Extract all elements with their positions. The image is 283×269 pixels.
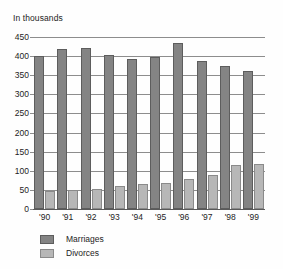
bar-group: [81, 37, 102, 209]
legend: Marriages Divorces: [40, 232, 104, 260]
bar-marriages-94: [127, 59, 137, 209]
bar-divorces-95: [161, 183, 171, 209]
bar-divorces-98: [231, 165, 241, 209]
x-axis-line: [33, 209, 265, 210]
y-tick-label-100: 100: [15, 166, 29, 176]
bar-marriages-97: [197, 61, 207, 209]
x-tick-label-94: '94: [126, 212, 149, 222]
x-tick-label-99: '99: [242, 212, 265, 222]
bar-group: [243, 37, 264, 209]
bar-group: [34, 37, 55, 209]
bar-divorces-99: [254, 164, 264, 209]
y-tick-label-250: 250: [15, 108, 29, 118]
x-tick-label-96: '96: [172, 212, 195, 222]
bar-group: [57, 37, 78, 209]
bar-group: [197, 37, 218, 209]
legend-item-divorces: Divorces: [40, 246, 104, 260]
y-tick-label-400: 400: [15, 51, 29, 61]
y-tick-label-450: 450: [15, 32, 29, 42]
x-axis-labels: '90'91'92'93'94'95'96'97'98'99: [33, 212, 265, 226]
x-tick-label-98: '98: [219, 212, 242, 222]
y-tick-label-150: 150: [15, 147, 29, 157]
bar-divorces-96: [184, 179, 194, 209]
bar-group: [173, 37, 194, 209]
bar-group: [150, 37, 171, 209]
chart-title: In thousands: [13, 13, 63, 23]
x-tick-label-90: '90: [33, 212, 56, 222]
bar-marriages-95: [150, 57, 160, 209]
legend-swatch-marriages: [40, 235, 54, 244]
legend-label-divorces: Divorces: [66, 248, 99, 258]
bar-chart: In thousands 050100150200250300350400450…: [0, 0, 283, 269]
bar-group: [220, 37, 241, 209]
bar-marriages-93: [104, 55, 114, 209]
bar-divorces-93: [115, 186, 125, 209]
x-tick-label-92: '92: [79, 212, 102, 222]
bar-marriages-91: [57, 49, 67, 209]
y-tick-label-200: 200: [15, 128, 29, 138]
y-tick-label-50: 50: [20, 185, 29, 195]
bar-marriages-90: [34, 56, 44, 209]
bar-marriages-96: [173, 43, 183, 209]
legend-swatch-divorces: [40, 249, 54, 258]
bar-divorces-92: [92, 189, 102, 209]
x-tick-label-93: '93: [103, 212, 126, 222]
bar-divorces-94: [138, 184, 148, 209]
y-tick-label-350: 350: [15, 70, 29, 80]
bar-marriages-98: [220, 66, 230, 209]
bar-group: [104, 37, 125, 209]
plot-area: 050100150200250300350400450: [33, 37, 265, 209]
legend-item-marriages: Marriages: [40, 232, 104, 246]
bar-divorces-97: [208, 175, 218, 209]
bars-layer: [33, 37, 265, 209]
x-tick-label-97: '97: [195, 212, 218, 222]
y-tick-label-0: 0: [24, 204, 29, 214]
x-tick-label-91: '91: [56, 212, 79, 222]
x-tick-label-95: '95: [149, 212, 172, 222]
bar-group: [127, 37, 148, 209]
legend-label-marriages: Marriages: [66, 234, 104, 244]
bar-divorces-90: [45, 191, 55, 209]
bar-marriages-99: [243, 71, 253, 209]
bar-marriages-92: [81, 48, 91, 209]
bar-divorces-91: [68, 190, 78, 209]
y-tick-label-300: 300: [15, 89, 29, 99]
